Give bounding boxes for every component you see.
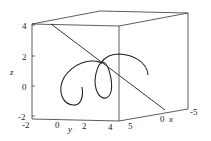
- x-tick-5: 5: [128, 121, 133, 131]
- y-axis: -2 0 2 4 y: [22, 120, 113, 134]
- y-tick-4: 4: [108, 122, 113, 132]
- x-axis: 5 0 -5 x: [128, 107, 198, 131]
- z-tick-2: 2: [22, 52, 27, 62]
- z-axis: 4 2 0 -2 z: [9, 21, 35, 122]
- y-axis-label: y: [67, 124, 72, 134]
- y-tick-2: 2: [82, 121, 87, 131]
- x-tick-neg5: -5: [190, 107, 198, 117]
- z-tick-0: 0: [22, 82, 27, 92]
- x-tick-0: 0: [160, 114, 165, 124]
- x-axis-label: x: [168, 114, 173, 124]
- y-tick-0: 0: [55, 120, 60, 130]
- curve: [61, 54, 148, 105]
- y-tick-neg2: -2: [22, 120, 30, 130]
- 3d-plot: 4 2 0 -2 z -2 0 2 4 y 5 0 -5 x: [0, 0, 211, 141]
- z-axis-label: z: [9, 67, 14, 77]
- z-tick-4: 4: [22, 21, 27, 31]
